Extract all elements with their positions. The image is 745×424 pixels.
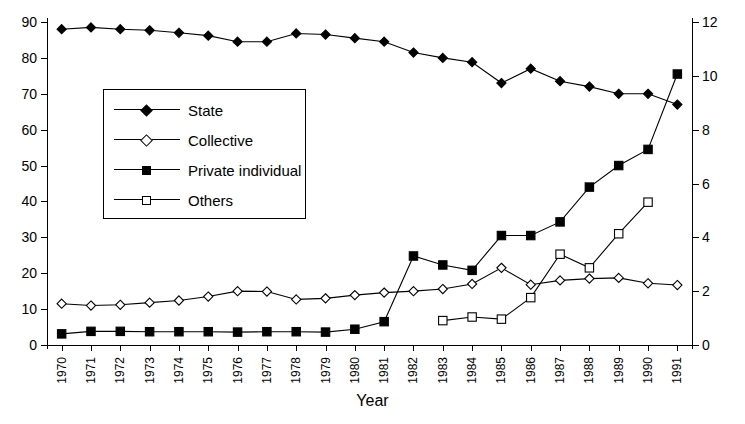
y-axis-left-tick [41,345,48,346]
x-axis-label: 1989 [613,357,625,384]
x-axis-label: 1991 [671,357,683,384]
x-axis-label: 1971 [85,357,97,384]
data-point [233,328,241,336]
data-point [556,218,564,226]
data-point [614,89,623,98]
data-point [526,64,535,73]
y-axis-left-label: 90 [4,15,37,29]
legend-swatch [114,164,180,176]
data-point [673,70,681,78]
legend-label: Private individual [188,162,301,179]
legend-item-collective: Collective [114,128,253,152]
y-axis-right-tick [692,130,699,131]
x-axis-tick [267,345,268,351]
data-point [614,273,623,282]
data-point [292,295,301,304]
x-axis-tick [296,345,297,351]
y-axis-right-tick [692,237,699,238]
legend-swatch [114,104,180,116]
data-point [321,294,330,303]
data-point [468,279,477,288]
data-point [380,37,389,46]
x-axis-tick [355,345,356,351]
x-axis-tick [208,345,209,351]
legend-item-others: Others [114,188,233,212]
data-point [643,279,652,288]
data-point [468,313,476,321]
data-point [409,287,418,296]
y-axis-left-label: 70 [4,87,37,101]
y-axis-right-label: 8 [702,123,726,137]
data-point [233,287,242,296]
data-point [439,316,447,324]
y-axis-right-tick [692,291,699,292]
data-point [57,330,65,338]
data-point [497,231,505,239]
data-point [497,263,506,272]
y-axis-left-label: 20 [4,266,37,280]
x-axis-tick [326,345,327,351]
y-axis-left-label: 80 [4,51,37,65]
data-point [292,328,300,336]
x-axis-label: 1983 [437,357,449,384]
data-point [468,58,477,67]
x-axis-tick [443,345,444,351]
x-axis-label: 1975 [202,357,214,384]
data-point [86,301,95,310]
series-line [443,202,648,320]
x-axis-label: 1980 [349,357,361,384]
data-point [204,31,213,40]
x-axis-tick [120,345,121,351]
legend-label: State [188,102,223,119]
series-others [439,198,653,325]
x-axis-label: 1974 [173,357,185,384]
data-point [87,327,95,335]
data-point [497,315,505,323]
data-point [438,284,447,293]
data-point [351,325,359,333]
data-point [673,280,682,289]
x-axis-tick [531,345,532,351]
data-point [439,261,447,269]
x-axis-label: 1982 [407,357,419,384]
data-point [644,145,652,153]
x-axis-label: 1979 [320,357,332,384]
data-point [292,29,301,38]
data-point [526,280,535,289]
data-point [585,183,593,191]
data-point [585,274,594,283]
chart-container: 0102030405060708090 024681012 1970197119… [0,0,745,424]
data-point [615,230,623,238]
x-axis-label: 1978 [290,357,302,384]
data-point [497,78,506,87]
y-axis-right-tick [692,22,699,23]
x-axis-tick [179,345,180,351]
data-point [527,231,535,239]
data-point [262,37,271,46]
data-point [145,26,154,35]
data-point [145,328,153,336]
y-axis-left-label: 0 [4,338,37,352]
data-point [57,25,66,34]
diamond-filled-icon [140,104,153,117]
data-point [438,53,447,62]
data-point [116,25,125,34]
x-axis-title: Year [0,392,745,410]
square-filled-icon [142,166,151,175]
x-axis-label: 1973 [144,357,156,384]
y-axis-right-label: 0 [702,338,726,352]
x-axis-label: 1976 [232,357,244,384]
data-point [145,298,154,307]
y-axis-right-tick [692,184,699,185]
x-axis-label: 1985 [495,357,507,384]
data-point [555,77,564,86]
x-axis-label: 1981 [378,357,390,384]
legend-swatch [114,194,180,206]
y-axis-left-label: 50 [4,159,37,173]
data-point [321,30,330,39]
y-axis-left-label: 30 [4,230,37,244]
data-point [263,328,271,336]
data-point [174,28,183,37]
data-point [380,288,389,297]
x-axis-tick [91,345,92,351]
